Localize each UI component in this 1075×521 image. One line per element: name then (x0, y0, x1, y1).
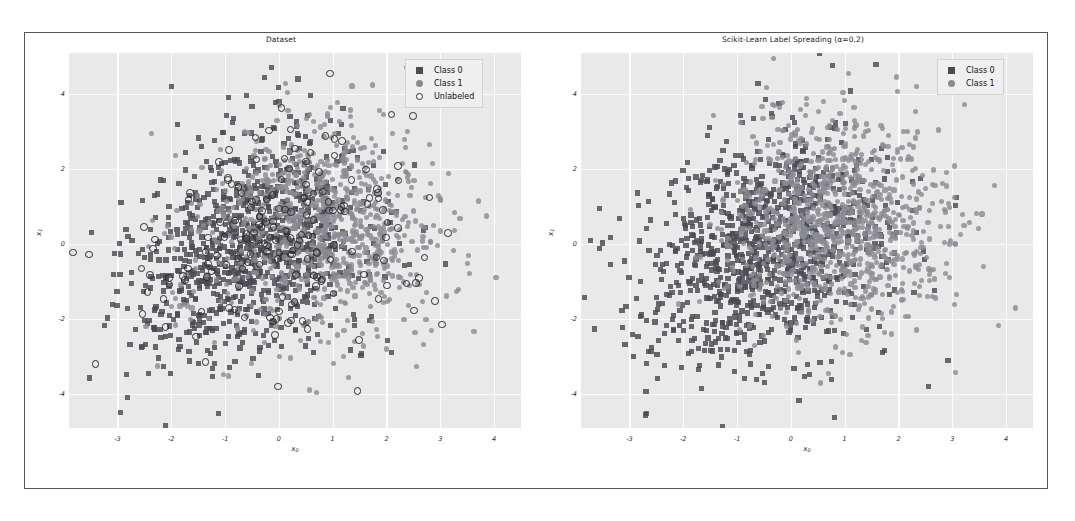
scatter-point-ci (809, 130, 814, 135)
scatter-point-ci (730, 265, 735, 270)
legend-entry[interactable]: Class 1 (411, 77, 474, 90)
scatter-point-sq (689, 232, 694, 237)
scatter-point-sq (673, 212, 678, 217)
scatter-point-sq (223, 160, 228, 165)
scatter-point-sq (945, 358, 950, 363)
legend-left[interactable]: Class 0Class 1Unlabeled (405, 59, 483, 108)
scatter-point-ci (407, 193, 412, 198)
scatter-point-sq (252, 280, 257, 285)
scatter-point-ci (420, 238, 425, 243)
scatter-point-ci (371, 159, 376, 164)
scatter-point-ci (344, 194, 349, 199)
scatter-point-ol (431, 297, 439, 305)
scatter-point-ci (1013, 305, 1018, 310)
scatter-point-ci (944, 170, 949, 175)
scatter-point-ci (198, 228, 203, 233)
scatter-point-ci (763, 236, 768, 241)
scatter-point-sq (256, 373, 261, 378)
scatter-point-ol (92, 360, 100, 368)
legend-right[interactable]: Class 0Class 1 (937, 59, 1004, 95)
scatter-point-ci (871, 252, 876, 257)
scatter-point-ci (877, 227, 882, 232)
scatter-point-ci (405, 129, 410, 134)
scatter-point-sq (223, 341, 228, 346)
scatter-point-sq (348, 347, 353, 352)
scatter-point-ci (808, 159, 813, 164)
scatter-point-ol (360, 271, 368, 279)
scatter-point-ci (748, 293, 753, 298)
scatter-point-ci (759, 104, 764, 109)
scatter-point-sq (183, 220, 188, 225)
scatter-point-sq (705, 177, 710, 182)
scatter-point-sq (187, 211, 192, 216)
scatter-point-ci (905, 224, 910, 229)
scatter-point-sq (677, 268, 682, 273)
scatter-point-ci (762, 187, 767, 192)
scatter-point-ci (855, 200, 860, 205)
scatter-point-ci (854, 236, 859, 241)
scatter-point-sq (340, 106, 345, 111)
scatter-point-ci (847, 211, 852, 216)
scatter-point-ci (841, 131, 846, 136)
scatter-point-ol (287, 126, 295, 134)
scatter-point-sq (178, 256, 183, 261)
scatter-point-ci (907, 195, 912, 200)
scatter-point-ci (802, 239, 807, 244)
scatter-point-sq (664, 323, 669, 328)
scatter-point-sq (671, 313, 676, 318)
scatter-point-ci (150, 218, 155, 223)
scatter-point-ci (811, 205, 816, 210)
scatter-point-ci (809, 191, 814, 196)
legend-entry[interactable]: Class 0 (943, 64, 995, 77)
scatter-point-sq (117, 241, 122, 246)
scatter-point-ci (794, 321, 799, 326)
scatter-point-ci (848, 206, 853, 211)
scatter-point-ci (841, 163, 846, 168)
y-axis-label-text: x (35, 232, 43, 236)
scatter-point-ci (858, 256, 863, 261)
x-tick-label: 4 (1004, 435, 1008, 443)
scatter-point-sq (204, 330, 209, 335)
scatter-point-sq (224, 113, 229, 118)
scatter-point-sq (857, 193, 862, 198)
scatter-point-ci (320, 243, 325, 248)
y-axis-label-text: x (547, 232, 555, 236)
scatter-point-ci (165, 223, 170, 228)
scatter-point-sq (693, 263, 698, 268)
legend-entry[interactable]: Unlabeled (411, 90, 474, 103)
scatter-point-sq (733, 153, 738, 158)
scatter-point-sq (643, 389, 648, 394)
scatter-point-ol (271, 331, 279, 339)
scatter-point-sq (703, 341, 708, 346)
scatter-point-ci (420, 299, 425, 304)
scatter-point-ci (409, 185, 414, 190)
scatter-point-ci (772, 227, 777, 232)
scatter-point-sq (125, 395, 130, 400)
scatter-point-sq (240, 294, 245, 299)
scatter-point-ci (900, 256, 905, 261)
scatter-point-sq (704, 328, 709, 333)
legend-entry[interactable]: Class 0 (411, 64, 474, 77)
scatter-point-sq (685, 300, 690, 305)
scatter-point-sq (166, 215, 171, 220)
scatter-point-ol (234, 255, 242, 263)
scatter-point-ci (335, 100, 340, 105)
scatter-point-sq (877, 324, 882, 329)
scatter-point-ci (866, 315, 871, 320)
scatter-point-sq (233, 294, 238, 299)
scatter-point-sq (196, 135, 201, 140)
scatter-point-sq (799, 303, 804, 308)
scatter-point-sq (227, 365, 232, 370)
scatter-point-ci (436, 193, 441, 198)
scatter-point-ci (325, 111, 330, 116)
scatter-point-ci (265, 166, 270, 171)
scatter-point-sq (296, 133, 301, 138)
scatter-point-ci (764, 85, 769, 90)
scatter-point-ci (911, 220, 916, 225)
scatter-point-ci (405, 224, 410, 229)
scatter-point-sq (656, 338, 661, 343)
x-tick-label: -1 (222, 435, 228, 443)
scatter-point-ci (688, 207, 693, 212)
legend-entry[interactable]: Class 1 (943, 77, 995, 90)
scatter-point-ci (777, 105, 782, 110)
